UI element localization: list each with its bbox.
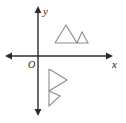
x-axis-label: x <box>111 58 117 70</box>
upper-double-triangle-shape <box>55 25 88 43</box>
x-axis-left-arrowhead <box>5 53 12 60</box>
y-axis-top-arrowhead <box>35 6 42 13</box>
origin-label: O <box>28 59 35 70</box>
y-axis-group <box>35 6 42 116</box>
x-axis-group <box>5 53 113 60</box>
coordinate-plane-diagram: y x O <box>0 0 126 123</box>
figure-container: y x O <box>0 0 126 123</box>
lower-double-triangle-shape <box>49 69 67 106</box>
y-axis-bottom-arrowhead <box>35 109 42 116</box>
y-axis-label: y <box>42 5 48 17</box>
